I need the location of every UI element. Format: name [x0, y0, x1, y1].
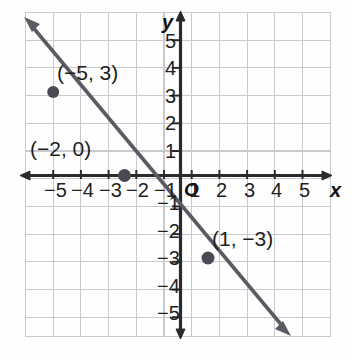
y-axis-arrow-down [176, 329, 185, 339]
y-tick-label-neg3: −3 [157, 248, 180, 268]
y-tick-label-3: 3 [165, 86, 176, 106]
plotted-line-arrow-lower-right [275, 321, 291, 336]
y-tick-label-neg2: −2 [157, 221, 180, 241]
x-tick-label-3: 3 [244, 180, 255, 200]
point-label-1-neg3: (1, −3) [212, 228, 273, 249]
y-axis-label: y [162, 12, 173, 32]
x-tick-label-5: 5 [299, 180, 310, 200]
origin-label: O [184, 180, 199, 199]
y-tick-label-neg1: −1 [157, 193, 180, 213]
x-axis-label: x [330, 180, 341, 200]
x-tick-label-neg5: −5 [44, 180, 67, 200]
point-label-neg5-3: (−5, 3) [57, 62, 118, 83]
x-tick-label-neg3: −3 [99, 180, 122, 200]
x-tick-label-neg4: −4 [71, 180, 94, 200]
x-tick-label-neg2: −2 [126, 180, 149, 200]
point-marker-neg5-3 [47, 86, 59, 98]
y-tick-label-neg4: −4 [157, 276, 180, 296]
y-tick-label-5: 5 [165, 31, 176, 51]
plotted-line-arrow-upper-left [24, 17, 40, 32]
y-tick-label-neg5: −5 [157, 303, 180, 323]
point-marker-1-neg3 [202, 252, 215, 265]
x-tick-label-2: 2 [216, 180, 227, 200]
figure-canvas: −5 −4 −3 −2 −1 1 2 3 4 5 O x y 5 4 3 2 1… [0, 0, 353, 359]
y-tick-label-1: 1 [165, 141, 176, 161]
y-tick-label-2: 2 [165, 113, 176, 133]
y-tick-label-4: 4 [165, 58, 176, 78]
x-tick-label-4: 4 [271, 180, 282, 200]
point-label-neg2-0: (−2, 0) [30, 138, 91, 159]
